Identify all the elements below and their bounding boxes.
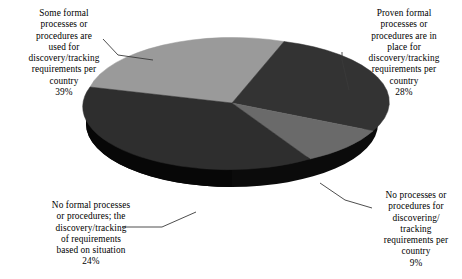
pie-label-percent: 24% <box>28 256 154 267</box>
pie-label-percent: 9% <box>372 258 460 269</box>
pie-label-line: No formal processes <box>52 200 130 210</box>
pie-label-line: tracking <box>400 224 431 234</box>
leader-line-no-processes <box>320 183 372 208</box>
pie-label-line: country <box>389 76 418 86</box>
pie-label-proven-formal: Proven formal processes or procedures ar… <box>352 8 456 98</box>
pie-label-line: discovery/tracking <box>56 223 127 233</box>
pie-label-no-processes: No processes or procedures for discoveri… <box>372 190 460 269</box>
pie-label-line: processes or <box>381 19 428 29</box>
pie-label-no-formal: No formal processes or procedures; the d… <box>28 200 154 268</box>
pie-label-line: discovering/ <box>392 213 439 223</box>
pie-label-line: used for <box>48 42 79 52</box>
pie-label-line: procedures are in <box>371 31 437 41</box>
pie-label-line: procedures are <box>36 31 92 41</box>
pie-label-line: procedures for <box>388 201 443 211</box>
pie-label-line: processes or <box>41 19 88 29</box>
pie-label-percent: 39% <box>8 87 120 98</box>
pie-label-line: of requirements <box>61 234 121 244</box>
pie-label-line: Proven formal <box>377 8 432 18</box>
pie-label-some-formal: Some formal processes or procedures are … <box>8 8 120 98</box>
pie-label-percent: 28% <box>352 87 456 98</box>
pie-label-line: or procedures; the <box>57 211 126 221</box>
pie-label-line: requirements per <box>32 64 96 74</box>
pie-label-line: requirements per <box>384 235 448 245</box>
pie-label-line: Some formal <box>39 8 88 18</box>
pie-label-line: discovery/tracking <box>369 53 440 63</box>
pie-label-line: discovery/tracking <box>29 53 100 63</box>
pie-label-line: country <box>49 76 78 86</box>
pie-label-line: No processes or <box>386 190 447 200</box>
pie-chart-figure: Some formal processes or procedures are … <box>0 0 462 279</box>
pie-label-line: based on situation <box>57 245 126 255</box>
pie-label-line: country <box>401 246 430 256</box>
pie-label-line: place for <box>387 42 421 52</box>
pie-label-line: requirements per <box>372 64 436 74</box>
